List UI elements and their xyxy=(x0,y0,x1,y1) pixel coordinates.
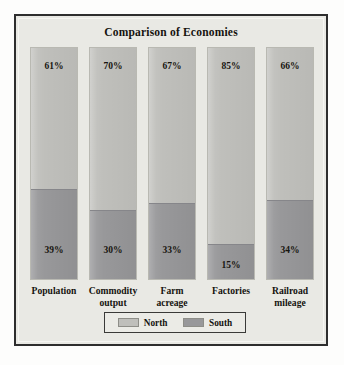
x-axis-label-line: Commodity xyxy=(79,285,147,297)
bar-column-farm-acreage: 67% 33% Farm acreage xyxy=(148,47,196,280)
stacked-bar[interactable]: 61% 39% xyxy=(30,47,78,280)
bar-value-south: 30% xyxy=(90,245,136,255)
bar-column-population: 61% 39% Population xyxy=(30,47,78,280)
legend-swatch-north-icon xyxy=(118,318,139,327)
bar-column-factories: 85% 15% Factories xyxy=(207,47,255,280)
bar-segment-south[interactable]: 15% xyxy=(208,244,254,279)
x-axis-label-line: mileage xyxy=(256,297,324,309)
bar-value-south: 33% xyxy=(149,245,195,255)
x-axis-label-population: Population xyxy=(20,285,88,297)
stacked-bar[interactable]: 67% 33% xyxy=(148,47,196,280)
x-axis-label-line: Factories xyxy=(197,285,265,297)
chart-frame-border: Comparison of Economies 61% 39% Populati… xyxy=(14,14,328,346)
stacked-bar[interactable]: 66% 34% xyxy=(266,47,314,280)
bar-segment-north[interactable]: 61% xyxy=(31,48,77,189)
bar-value-south: 34% xyxy=(267,245,313,255)
legend-label-south: South xyxy=(209,318,232,328)
bar-segment-north[interactable]: 85% xyxy=(208,48,254,244)
bar-value-north: 61% xyxy=(31,61,77,71)
legend-item-north[interactable]: North xyxy=(118,318,168,328)
x-axis-label-farm-acreage: Farm acreage xyxy=(138,285,206,308)
chart-figure: Comparison of Economies 61% 39% Populati… xyxy=(0,0,344,365)
bar-segment-north[interactable]: 66% xyxy=(267,48,313,200)
bar-value-north: 67% xyxy=(149,61,195,71)
bar-value-north: 70% xyxy=(90,61,136,71)
x-axis-label-line: Railroad xyxy=(256,285,324,297)
bar-segment-north[interactable]: 67% xyxy=(149,48,195,203)
bar-segment-south[interactable]: 34% xyxy=(267,200,313,279)
x-axis-label-line: output xyxy=(79,297,147,309)
stacked-bar[interactable]: 70% 30% xyxy=(89,47,137,280)
bar-value-south: 39% xyxy=(31,245,77,255)
chart-title: Comparison of Economies xyxy=(16,26,326,38)
bar-column-railroad-mileage: 66% 34% Railroad mileage xyxy=(266,47,314,280)
x-axis-label-commodity-output: Commodity output xyxy=(79,285,147,308)
legend-swatch-south-icon xyxy=(183,318,204,327)
bar-segment-south[interactable]: 39% xyxy=(31,189,77,279)
bar-value-north: 66% xyxy=(267,61,313,71)
bar-value-south: 15% xyxy=(208,260,254,270)
bar-segment-south[interactable]: 33% xyxy=(149,203,195,279)
x-axis-label-factories: Factories xyxy=(197,285,265,297)
bar-segment-north[interactable]: 70% xyxy=(90,48,136,210)
bar-value-north: 85% xyxy=(208,61,254,71)
bar-segment-south[interactable]: 30% xyxy=(90,210,136,279)
legend-label-north: North xyxy=(144,318,168,328)
stacked-bar[interactable]: 85% 15% xyxy=(207,47,255,280)
bar-column-commodity-output: 70% 30% Commodity output xyxy=(89,47,137,280)
x-axis-label-line: acreage xyxy=(138,297,206,309)
x-axis-label-line: Farm xyxy=(138,285,206,297)
chart-legend: North South xyxy=(104,312,246,333)
plot-area: 61% 39% Population 70% 30% xyxy=(30,47,316,280)
legend-item-south[interactable]: South xyxy=(183,318,232,328)
x-axis-label-railroad-mileage: Railroad mileage xyxy=(256,285,324,308)
x-axis-label-line: Population xyxy=(20,285,88,297)
